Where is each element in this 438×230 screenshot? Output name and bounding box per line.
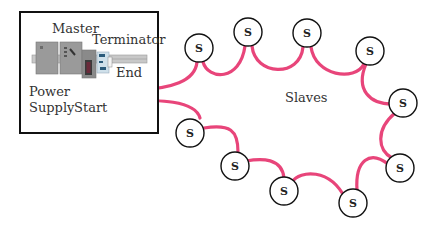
svg-text:S: S	[396, 162, 404, 175]
cable-slave-9-10	[204, 127, 238, 152]
svg-text:S: S	[303, 27, 311, 40]
svg-text:S: S	[244, 26, 252, 39]
slave-node: S	[176, 119, 204, 147]
cable-slave-8-9	[246, 160, 284, 178]
cable-slave-7-8	[292, 174, 345, 198]
slave-node: S	[356, 37, 384, 65]
cable-slave-5-6	[381, 113, 395, 158]
label-power: Power	[29, 84, 71, 99]
svg-text:S: S	[366, 45, 374, 58]
slave-node: S	[221, 152, 249, 180]
label-slaves: Slaves	[285, 90, 328, 105]
slave-node: S	[386, 154, 414, 182]
cable-slave-6-7	[357, 158, 388, 190]
svg-text:S: S	[186, 127, 194, 140]
label-end: End	[116, 65, 142, 80]
slave-nodes: S S S S S S S S S S	[176, 18, 417, 217]
label-terminator: Terminator	[92, 32, 166, 47]
label-supply: Supply	[29, 100, 75, 115]
cable-slave-2-3	[252, 46, 303, 69]
svg-text:S: S	[195, 42, 203, 55]
master-device	[60, 42, 82, 74]
slave-node: S	[270, 177, 298, 205]
svg-text:S: S	[399, 97, 407, 110]
power-supply-device	[36, 42, 58, 74]
svg-text:S: S	[231, 160, 239, 173]
slave-node: S	[293, 19, 321, 47]
network-diagram: Master Terminator End Power Supply Start…	[0, 0, 438, 230]
label-start: Start	[74, 100, 108, 115]
slave-node: S	[185, 34, 213, 62]
slave-node: S	[389, 89, 417, 117]
svg-text:S: S	[349, 197, 357, 210]
slave-node: S	[234, 18, 262, 46]
control-cabinet: Master Terminator End Power Supply Start	[20, 12, 166, 133]
svg-text:S: S	[280, 185, 288, 198]
cable-slave-4-5	[362, 64, 392, 104]
slave-node: S	[339, 189, 367, 217]
